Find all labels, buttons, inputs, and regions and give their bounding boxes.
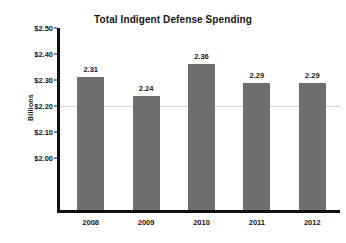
bar-value-label: 2.24: [139, 84, 154, 93]
y-tick-mark: [54, 106, 57, 107]
y-tick-label: $2.10: [34, 128, 53, 137]
bar[interactable]: 2.31: [77, 77, 104, 210]
y-tick-mark: [54, 28, 57, 29]
y-tick-label: $2.40: [34, 50, 53, 59]
bar-group[interactable]: 2.29: [299, 83, 326, 210]
bar-value-label: 2.31: [83, 65, 98, 74]
x-tick-label: 2009: [138, 218, 155, 227]
bar-value-label: 2.36: [194, 52, 209, 61]
y-tick-label: $2.50: [34, 24, 53, 33]
chart-container: Total Indigent Defense Spending Billions…: [0, 0, 346, 243]
y-tick-mark: [54, 158, 57, 159]
x-tick-label: 2012: [304, 218, 321, 227]
x-tick-label: 2010: [193, 218, 210, 227]
y-axis-label: Billions: [27, 88, 34, 128]
y-tick-mark: [54, 54, 57, 55]
y-tick-label: $2.20: [34, 102, 53, 111]
bar[interactable]: 2.24: [133, 96, 160, 210]
bar-value-label: 2.29: [250, 71, 265, 80]
y-tick-label: $2.30: [34, 76, 53, 85]
bar-group[interactable]: 2.31: [77, 77, 104, 210]
plot-area: $2.50$2.40$2.30$2.20$2.10$2.00 2.312.242…: [57, 28, 340, 213]
bar-value-label: 2.29: [305, 71, 320, 80]
y-tick-mark: [54, 80, 57, 81]
x-tick-label: 2008: [82, 218, 99, 227]
bar-group[interactable]: 2.24: [133, 96, 160, 210]
bar-group[interactable]: 2.36: [188, 64, 215, 210]
y-tick-label: $2.00: [34, 154, 53, 163]
bar-group[interactable]: 2.29: [243, 83, 270, 210]
x-axis-line: [57, 210, 340, 213]
x-tick-label: 2011: [249, 218, 265, 227]
bar[interactable]: 2.29: [299, 83, 326, 210]
y-axis-line: [57, 28, 60, 213]
y-tick-mark: [54, 132, 57, 133]
bar[interactable]: 2.29: [243, 83, 270, 210]
bar[interactable]: 2.36: [188, 64, 215, 210]
